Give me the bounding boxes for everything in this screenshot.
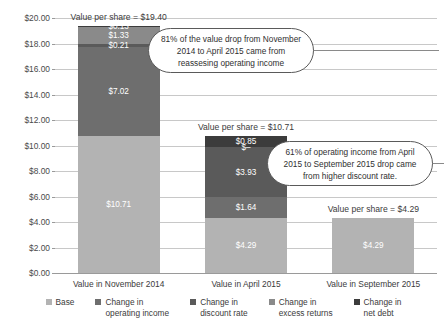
- gridline: [55, 273, 437, 274]
- callout-operating-income: 81% of the value drop from November 2014…: [148, 28, 314, 73]
- y-axis-tick-label: $8.00: [2, 166, 50, 176]
- y-axis-tick-label: $10.00: [2, 141, 50, 151]
- legend-label: Change in operating income: [105, 297, 169, 319]
- x-axis-category-label: Value in September 2015: [293, 279, 447, 289]
- y-axis-tick-label: $14.00: [2, 90, 50, 100]
- legend-item-discount-rate[interactable]: Change in discount rate: [190, 297, 248, 319]
- bar-3[interactable]: $4.29: [332, 218, 414, 273]
- bar-total-label-1: Value per share = $19.40: [39, 12, 199, 22]
- segment-value-label: $10.71: [78, 201, 160, 209]
- segment-value-label: $1.64: [205, 204, 287, 212]
- y-axis-tick-label: $18.00: [2, 39, 50, 49]
- legend: Base Change in operating income Change i…: [0, 297, 447, 327]
- bar-1[interactable]: $10.71$7.02$0.21$1.33$0.13: [78, 26, 160, 273]
- segment-value-label: $0.13: [78, 23, 160, 31]
- y-axis-tickmark: [52, 146, 55, 147]
- legend-swatch-icon: [354, 299, 360, 305]
- y-axis-tick-label: $6.00: [2, 192, 50, 202]
- y-axis-tick-label: $0.00: [2, 268, 50, 278]
- y-axis-tick-label: $16.00: [2, 64, 50, 74]
- legend-label: Change in net debt: [364, 297, 402, 319]
- bar-total-label-2: Value per share = $10.71: [166, 122, 326, 132]
- segment-value-label: $7.02: [78, 88, 160, 96]
- legend-item-operating-income[interactable]: Change in operating income: [95, 297, 169, 319]
- y-axis-tick-label: $12.00: [2, 115, 50, 125]
- y-axis-tick-label: $2.00: [2, 243, 50, 253]
- y-axis-tickmark: [52, 44, 55, 45]
- legend-swatch-icon: [269, 299, 275, 305]
- y-axis-tickmark: [52, 95, 55, 96]
- y-axis-tick-label: $4.00: [2, 217, 50, 227]
- legend-swatch-icon: [46, 299, 52, 305]
- legend-label: Change in excess returns: [279, 297, 333, 319]
- legend-label: Base: [56, 297, 75, 308]
- callout-discount-rate: 61% of operating income from April 2015 …: [267, 141, 433, 186]
- callout-leader-1: [311, 50, 439, 51]
- segment-value-label: $4.29: [205, 242, 287, 250]
- y-axis-tickmark: [52, 222, 55, 223]
- legend-item-base[interactable]: Base: [46, 297, 75, 308]
- y-axis-tickmark: [52, 248, 55, 249]
- y-axis-tickmark: [52, 69, 55, 70]
- y-axis-tickmark: [52, 171, 55, 172]
- y-axis-tickmark: [52, 120, 55, 121]
- segment-value-label: $1.33: [78, 32, 160, 40]
- legend-swatch-icon: [95, 299, 101, 305]
- legend-item-excess-returns[interactable]: Change in excess returns: [269, 297, 333, 319]
- legend-swatch-icon: [190, 299, 196, 305]
- bar-total-label-3: Value per share = $4.29: [293, 204, 447, 214]
- chart-root: $10.71$7.02$0.21$1.33$0.13$4.29$1.64$3.9…: [0, 0, 447, 333]
- legend-item-net-debt[interactable]: Change in net debt: [354, 297, 402, 319]
- y-axis-tickmark: [52, 197, 55, 198]
- y-axis-tickmark: [52, 273, 55, 274]
- segment-value-label: $4.29: [332, 242, 414, 250]
- legend-label: Change in discount rate: [200, 297, 248, 319]
